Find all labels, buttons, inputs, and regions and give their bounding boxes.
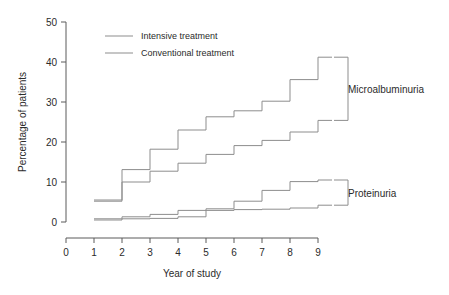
group-label-microalbuminuria: Microalbuminuria: [348, 84, 425, 95]
y-tick-label-50: 50: [46, 17, 58, 28]
bracket-microalbuminuria: [334, 57, 348, 120]
legend-label-intensive: Intensive treatment: [141, 31, 218, 41]
x-tick-label-1: 1: [91, 247, 97, 258]
curve-proteinuria-conventional: [94, 180, 332, 219]
y-tick-label-40: 40: [46, 57, 58, 68]
x-tick-label-8: 8: [287, 247, 293, 258]
curve-microalbuminuria-conventional: [94, 57, 332, 200]
x-tick-label-0: 0: [63, 247, 69, 258]
y-axis-title: Percentage of patients: [17, 72, 28, 172]
x-tick-label-9: 9: [315, 247, 321, 258]
x-axis-ticks: [66, 238, 318, 243]
x-tick-label-6: 6: [231, 247, 237, 258]
x-tick-label-4: 4: [175, 247, 181, 258]
figure-container: 50 40 30 20 10 0 Percentage of patients …: [0, 0, 449, 295]
x-tick-label-3: 3: [147, 247, 153, 258]
y-tick-label-10: 10: [46, 177, 58, 188]
bracket-proteinuria: [334, 180, 348, 205]
group-label-proteinuria: Proteinuria: [348, 188, 397, 199]
x-tick-label-7: 7: [259, 247, 265, 258]
y-axis-ticks: [61, 22, 66, 222]
y-tick-label-30: 30: [46, 97, 58, 108]
step-chart: 50 40 30 20 10 0 Percentage of patients …: [0, 0, 449, 295]
x-tick-label-2: 2: [119, 247, 125, 258]
curve-group: [94, 57, 332, 220]
curve-proteinuria-intensive: [94, 205, 332, 220]
bracket-group: [334, 57, 348, 205]
curve-microalbuminuria-intensive: [94, 120, 332, 201]
legend-label-conventional: Conventional treatment: [141, 48, 235, 58]
x-tick-label-5: 5: [203, 247, 209, 258]
y-tick-label-20: 20: [46, 137, 58, 148]
y-tick-label-0: 0: [51, 217, 57, 228]
x-axis-title: Year of study: [163, 268, 221, 279]
legend: Intensive treatment Conventional treatme…: [105, 31, 235, 58]
